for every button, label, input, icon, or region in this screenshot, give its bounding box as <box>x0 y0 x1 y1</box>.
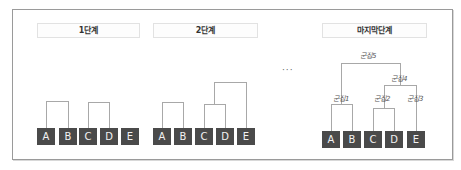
ellipsis: ··· <box>282 65 294 75</box>
stage1-ab-top <box>46 101 69 102</box>
node-e: E <box>121 128 139 145</box>
node-c: C <box>364 131 382 148</box>
stage2-ab-top <box>162 102 184 103</box>
c4-right <box>416 85 417 131</box>
c1-left <box>331 104 332 131</box>
c4-top <box>384 85 417 86</box>
cluster-2-label: 군집2 <box>374 93 390 103</box>
node-d: D <box>216 128 234 145</box>
node-b: B <box>343 131 361 148</box>
node-e: E <box>237 128 255 145</box>
node-b: B <box>59 128 77 145</box>
stage1-cd-top <box>88 102 110 103</box>
node-a: A <box>322 131 340 148</box>
node-c: C <box>195 128 213 145</box>
stage2-ab-left <box>162 102 163 128</box>
stage2-cde-top <box>214 82 247 83</box>
c5-top <box>341 63 401 64</box>
cluster-4-label: 군집4 <box>391 73 407 83</box>
stage1-cd-left <box>88 102 89 128</box>
stage2-ab-right <box>183 102 184 128</box>
stage1-ab-left <box>46 101 47 128</box>
c1-top <box>331 104 353 105</box>
node-d: D <box>385 131 403 148</box>
cluster-3-label: 군집3 <box>407 93 423 103</box>
c2-left <box>373 108 374 131</box>
stage-1-label: 1단계 <box>37 23 140 38</box>
node-c: C <box>79 128 97 145</box>
stage2-cde-left <box>214 82 215 104</box>
final-stage-label: 마지막단계 <box>322 23 427 38</box>
node-a: A <box>37 128 55 145</box>
c2-right <box>394 108 395 131</box>
stage2-cd-left <box>204 104 205 128</box>
stage1-cd-right <box>109 102 110 128</box>
node-b: B <box>174 128 192 145</box>
node-e: E <box>407 131 425 148</box>
stage2-cd-top <box>204 104 226 105</box>
cluster-1-label: 군집1 <box>333 93 349 103</box>
cluster-5-label: 군집5 <box>360 50 376 60</box>
c1-right <box>352 104 353 131</box>
stage1-ab-right <box>68 101 69 128</box>
node-a: A <box>153 128 171 145</box>
stage2-cd-right <box>225 104 226 128</box>
node-d: D <box>100 128 118 145</box>
c2-top <box>373 108 395 109</box>
stage2-cde-right <box>246 82 247 128</box>
stage-2-label: 2단계 <box>153 23 258 38</box>
